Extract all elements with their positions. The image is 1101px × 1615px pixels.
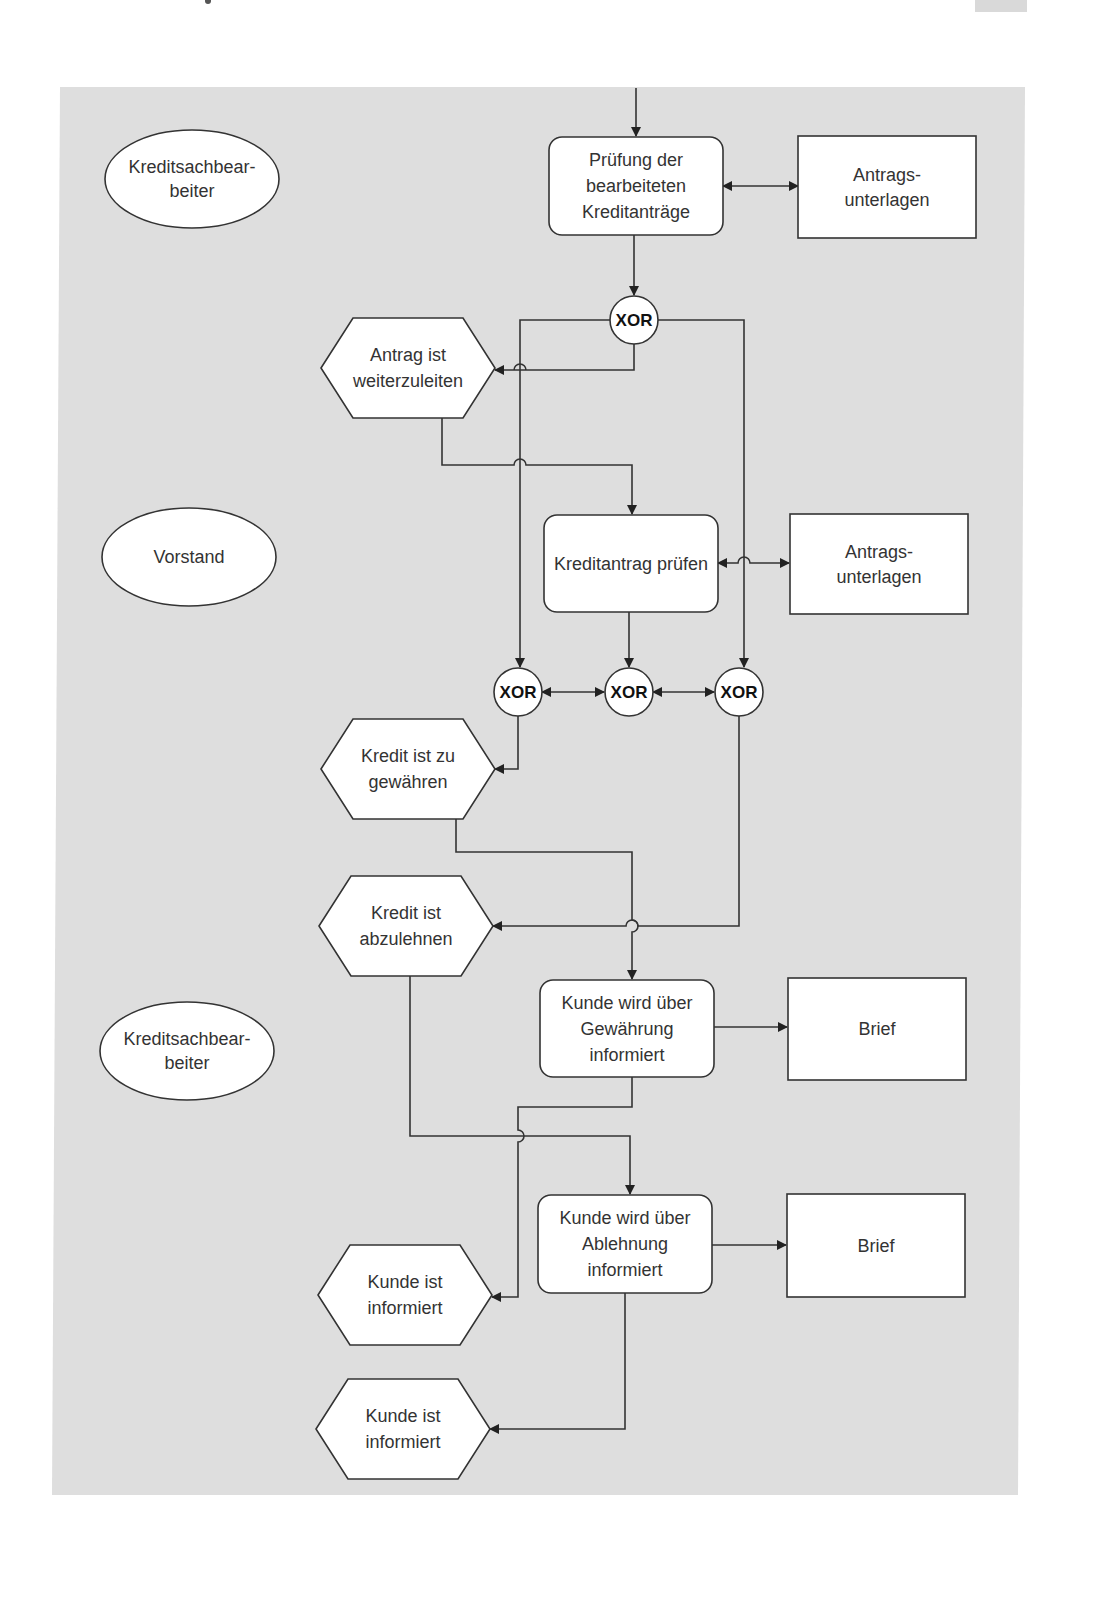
org-unit-vorstand: Vorstand bbox=[102, 508, 276, 606]
node-label-line: Vorstand bbox=[153, 547, 224, 567]
org-unit-kreditsachbearbeiter: Kreditsachbear-beiter bbox=[105, 130, 279, 228]
node-label-line: informiert bbox=[365, 1432, 440, 1452]
node-label-line: Ablehnung bbox=[582, 1234, 668, 1254]
node-label-line: Kreditsachbear- bbox=[123, 1029, 250, 1049]
node-label-line: Kredit ist zu bbox=[361, 746, 455, 766]
document-box[interactable] bbox=[798, 136, 976, 238]
function-f2[interactable]: Kreditantrag prüfen bbox=[544, 515, 718, 612]
node-label-line: Kreditanträge bbox=[582, 202, 690, 222]
node-label-line: unterlagen bbox=[844, 190, 929, 210]
xor-connector-x4[interactable]: XOR bbox=[715, 668, 763, 716]
node-label-line: Kunde wird über bbox=[561, 993, 692, 1013]
information-object-d1[interactable]: Antrags-unterlagen bbox=[798, 136, 976, 238]
node-label-line: Antrag ist bbox=[370, 345, 446, 365]
node-label-line: Kredit ist bbox=[371, 903, 441, 923]
node-label-line: Gewährung bbox=[580, 1019, 673, 1039]
event-e3[interactable]: Kredit istabzulehnen bbox=[319, 876, 493, 976]
xor-label: XOR bbox=[721, 683, 758, 702]
org-unit-ellipse bbox=[100, 1002, 274, 1100]
event-hexagon[interactable] bbox=[321, 719, 495, 819]
event-hexagon[interactable] bbox=[319, 876, 493, 976]
event-e1[interactable]: Antrag istweiterzuleiten bbox=[321, 318, 495, 418]
event-hexagon[interactable] bbox=[321, 318, 495, 418]
node-label-line: informiert bbox=[587, 1260, 662, 1280]
node-label-line: Prüfung der bbox=[589, 150, 683, 170]
node-label-line: abzulehnen bbox=[359, 929, 452, 949]
node-label-line: informiert bbox=[367, 1298, 442, 1318]
node-label-line: bearbeiteten bbox=[586, 176, 686, 196]
node-label-line: Brief bbox=[857, 1236, 895, 1256]
xor-connector-x2[interactable]: XOR bbox=[494, 668, 542, 716]
node-label-line: gewähren bbox=[368, 772, 447, 792]
org-unit-kreditsachbearbeiter: Kreditsachbear-beiter bbox=[100, 1002, 274, 1100]
node-label-line: Kunde ist bbox=[365, 1406, 440, 1426]
function-f4[interactable]: Kunde wird überAblehnunginformiert bbox=[538, 1195, 712, 1293]
node-label-line: beiter bbox=[164, 1053, 209, 1073]
event-e5[interactable]: Kunde istinformiert bbox=[316, 1379, 490, 1479]
node-label-line: beiter bbox=[169, 181, 214, 201]
node-label-line: Kunde wird über bbox=[559, 1208, 690, 1228]
node-label-line: Antrags- bbox=[853, 165, 921, 185]
node-label-line: Kunde ist bbox=[367, 1272, 442, 1292]
function-f1[interactable]: Prüfung derbearbeitetenKreditanträge bbox=[549, 137, 723, 235]
node-label-line: weiterzuleiten bbox=[352, 371, 463, 391]
information-object-d4[interactable]: Brief bbox=[787, 1194, 965, 1297]
information-object-d2[interactable]: Antrags-unterlagen bbox=[790, 514, 968, 614]
event-hexagon[interactable] bbox=[316, 1379, 490, 1479]
event-e4[interactable]: Kunde istinformiert bbox=[318, 1245, 492, 1345]
node-label-line: Kreditantrag prüfen bbox=[554, 554, 708, 574]
event-hexagon[interactable] bbox=[318, 1245, 492, 1345]
xor-label: XOR bbox=[500, 683, 537, 702]
node-label-line: Kreditsachbear- bbox=[128, 157, 255, 177]
node-label-line: Brief bbox=[858, 1019, 896, 1039]
information-object-d3[interactable]: Brief bbox=[788, 978, 966, 1080]
process-diagram: Kreditsachbear-beiterVorstandKreditsachb… bbox=[0, 0, 1101, 1615]
xor-connector-x1[interactable]: XOR bbox=[610, 296, 658, 344]
xor-label: XOR bbox=[611, 683, 648, 702]
org-unit-ellipse bbox=[105, 130, 279, 228]
xor-connector-x3[interactable]: XOR bbox=[605, 668, 653, 716]
document-box[interactable] bbox=[790, 514, 968, 614]
function-f3[interactable]: Kunde wird überGewährunginformiert bbox=[540, 980, 714, 1077]
xor-label: XOR bbox=[616, 311, 653, 330]
node-label-line: informiert bbox=[589, 1045, 664, 1065]
event-e2[interactable]: Kredit ist zugewähren bbox=[321, 719, 495, 819]
node-label-line: unterlagen bbox=[836, 567, 921, 587]
node-label-line: Antrags- bbox=[845, 542, 913, 562]
